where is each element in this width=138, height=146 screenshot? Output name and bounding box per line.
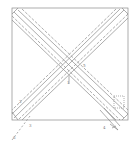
label-3: 3 [29, 123, 32, 128]
label-6: 6 [13, 135, 16, 140]
label-4: 4 [103, 125, 106, 130]
bottom-right-detail [110, 96, 124, 130]
label-5: 5 [83, 63, 86, 68]
diagram-canvas [0, 0, 138, 146]
label-1: 1 [67, 80, 70, 85]
band-tl-br [12, 9, 128, 130]
label-2: 2 [19, 99, 22, 104]
